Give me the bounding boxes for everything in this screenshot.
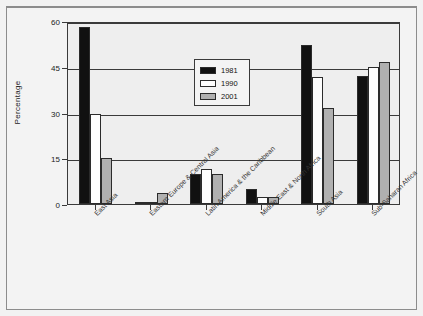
bar-1981 — [357, 76, 368, 204]
bar-group — [301, 23, 334, 204]
bar-1990 — [201, 169, 212, 204]
bar-group — [357, 23, 390, 204]
chart-figure: Percentage 015304560 1981 1990 2001 East… — [0, 0, 423, 316]
bar-1981 — [190, 174, 201, 205]
legend-label-1990: 1990 — [221, 79, 238, 88]
bars-layer — [68, 23, 399, 204]
bar-1981 — [135, 202, 146, 204]
legend-swatch-1981-icon — [200, 67, 216, 74]
bar-group — [135, 23, 168, 204]
bar-2001 — [379, 62, 390, 204]
legend-swatch-1990-icon — [200, 80, 216, 87]
legend-item: 1990 — [200, 77, 249, 90]
bar-group — [190, 23, 223, 204]
legend-item: 2001 — [200, 90, 249, 103]
bar-group — [246, 23, 279, 204]
bar-1981 — [246, 189, 257, 204]
legend-label-1981: 1981 — [221, 66, 238, 75]
bar-1981 — [301, 45, 312, 204]
bar-1981 — [79, 27, 90, 204]
bar-group — [79, 23, 112, 204]
bar-1990 — [90, 114, 101, 204]
legend-item: 1981 — [200, 64, 249, 77]
legend-swatch-2001-icon — [200, 93, 216, 100]
legend-label-2001: 2001 — [221, 92, 238, 101]
bar-2001 — [323, 108, 334, 204]
chart-legend: 1981 1990 2001 — [194, 59, 250, 106]
plot-area: 1981 1990 2001 — [67, 22, 400, 205]
bar-1990 — [368, 67, 379, 204]
bar-1990 — [312, 77, 323, 204]
